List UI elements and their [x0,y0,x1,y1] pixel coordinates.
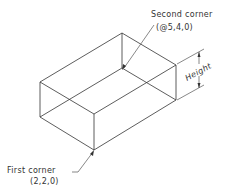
first-corner-label: First corner [7,166,56,175]
first-corner-leader [72,150,94,172]
box-wireframe [40,33,176,150]
box-diagram: Second corner (@5,4,0) First corner (2,2… [0,0,234,195]
second-corner-label: Second corner [151,10,213,19]
height-label: Height [184,61,214,82]
second-corner-leader [122,25,154,70]
first-corner-coords: (2,2,0) [30,177,59,186]
second-corner-coords: (@5,4,0) [156,23,193,32]
